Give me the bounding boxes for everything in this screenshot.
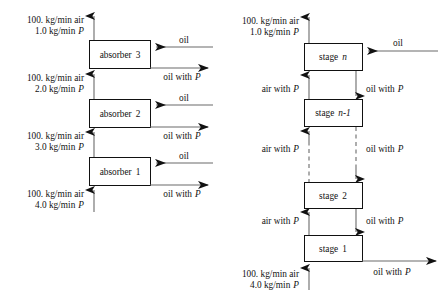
right-gas-top-line2: 1.0 kg/minP bbox=[250, 27, 299, 37]
absorber-1-oil-inlet-label: oil bbox=[179, 151, 189, 161]
stage-n-label: stagen bbox=[319, 52, 347, 62]
absorber-2-oil-outlet-label: oil withP bbox=[163, 131, 201, 141]
left-gas-inlet-line1: 100. kg/min air bbox=[27, 189, 85, 199]
absorber-2-oil-inlet-label: oil bbox=[179, 93, 189, 103]
stage-n-unit[interactable]: stagen bbox=[305, 44, 363, 71]
stage-2-unit[interactable]: stage2 bbox=[305, 183, 363, 209]
right-gas-inlet-line1: 100. kg/min air bbox=[242, 269, 300, 279]
left-gas-label-inlet: 100. kg/min air 4.0 kg/minP bbox=[27, 189, 85, 210]
left-gas-3to2-line2: 2.0 kg/minP bbox=[35, 84, 84, 94]
stage-2-label: stage2 bbox=[319, 191, 347, 201]
right-gas-top-line1: 100. kg/min air bbox=[242, 16, 300, 26]
absorber-3-oil-outlet-label: oil withP bbox=[163, 72, 201, 82]
absorber-2-unit[interactable]: absorber2 bbox=[90, 100, 151, 128]
right-gas-label-top: 100. kg/min air 1.0 kg/minP bbox=[242, 16, 300, 37]
absorber-3-oil-inlet-label: oil bbox=[179, 35, 189, 45]
process-flow-diagram: absorber3 oil oil withP absorber2 oil oi… bbox=[0, 0, 445, 301]
right-air-label-2: air withP bbox=[262, 216, 300, 226]
left-gas-2to1-line1: 100. kg/min air bbox=[27, 131, 85, 141]
left-gas-label-3to2: 100. kg/min air 2.0 kg/minP bbox=[27, 73, 85, 94]
stage-n-minus-1-label: stagen-1 bbox=[315, 108, 351, 118]
right-diagram-group: stagen oil stagen-1 stage2 stage1 bbox=[242, 16, 438, 290]
left-gas-inlet-line2: 4.0 kg/minP bbox=[35, 200, 84, 210]
absorber-1-oil-outlet-label: oil withP bbox=[163, 189, 201, 199]
right-air-label-mid: air withP bbox=[262, 144, 300, 154]
figure-canvas: absorber3 oil oil withP absorber2 oil oi… bbox=[0, 0, 445, 301]
stage-1-label: stage1 bbox=[319, 244, 347, 254]
stage-1-unit[interactable]: stage1 bbox=[305, 236, 363, 262]
left-gas-top-line2: 1.0 kg/minP bbox=[35, 26, 84, 36]
right-oil-label-2: oil withP bbox=[366, 216, 404, 226]
left-gas-2to1-line2: 3.0 kg/minP bbox=[35, 142, 84, 152]
stage-1-oil-outlet-label: oil withP bbox=[373, 267, 411, 277]
left-diagram-group: absorber3 oil oil withP absorber2 oil oi… bbox=[27, 15, 213, 212]
right-gas-label-inlet: 100. kg/min air 4.0 kg/minP bbox=[242, 269, 300, 290]
left-gas-label-top: 100. kg/min air 1.0 kg/minP bbox=[27, 15, 85, 36]
right-oil-label-mid: oil withP bbox=[366, 144, 404, 154]
right-gas-inlet-line2: 4.0 kg/minP bbox=[250, 280, 299, 290]
right-air-label-n: air withP bbox=[262, 84, 300, 94]
left-gas-3to2-line1: 100. kg/min air bbox=[27, 73, 85, 83]
stage-n-minus-1-unit[interactable]: stagen-1 bbox=[305, 100, 363, 127]
left-gas-top-line1: 100. kg/min air bbox=[27, 15, 85, 25]
left-gas-label-2to1: 100. kg/min air 3.0 kg/minP bbox=[27, 131, 85, 152]
absorber-3-unit[interactable]: absorber3 bbox=[90, 41, 151, 69]
stage-n-oil-inlet-label: oil bbox=[393, 38, 403, 48]
right-oil-label-n: oil withP bbox=[366, 84, 404, 94]
absorber-1-unit[interactable]: absorber1 bbox=[90, 158, 151, 186]
